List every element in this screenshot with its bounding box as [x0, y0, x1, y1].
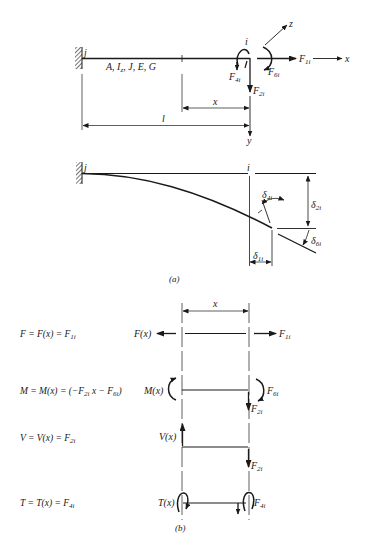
torque-F4i-icon — [243, 492, 253, 511]
moment-F6i-icon — [256, 379, 264, 401]
F-x-label: F(x) — [133, 328, 152, 340]
F2i-label: F2i — [250, 460, 263, 473]
F1i-label: F1i — [298, 53, 311, 66]
length-label: l — [162, 113, 165, 124]
node-i-label: i — [247, 162, 250, 173]
torque-equation: T = T(x) = F4i — [20, 498, 75, 510]
y-axis-label: y — [246, 135, 252, 146]
F4i-label: F4i — [228, 71, 241, 84]
moment-equation: M = M(x) = (−F2i x − F6i) — [19, 386, 122, 398]
delta-6i-label: δ6i — [311, 235, 321, 248]
delta-4i-label: δ4i — [262, 189, 272, 202]
beam-properties-label: A, Iz, J, E, G — [105, 61, 156, 74]
F4i-label: F4i — [253, 497, 266, 510]
deflected-beam: j i δ4i δ2i δ6i δ1i — [76, 162, 321, 266]
x-dimension-label: x — [212, 96, 218, 107]
moment-M-x-icon — [169, 378, 177, 400]
fixed-support-hatch-icon — [76, 162, 82, 184]
F6i-label: F6i — [266, 385, 279, 398]
node-j-label: j — [82, 162, 87, 173]
x-axis-label: x — [344, 53, 350, 64]
F1i-label: F1i — [278, 328, 291, 341]
M-x-label: M(x) — [143, 385, 164, 397]
fixed-support-hatch-icon — [75, 47, 82, 69]
node-j-label: j — [82, 47, 87, 58]
free-body-diagrams: x F = F(x) = F1i F(x) F1i M = M(x) = (−F… — [19, 298, 291, 520]
delta-1i-label: δ1i — [253, 250, 263, 263]
z-axis-arrow — [265, 25, 287, 45]
z-axis-label: z — [288, 18, 293, 29]
x-dimension-label: x — [212, 298, 218, 309]
node-i-label: i — [245, 36, 248, 47]
axial-force-equation: F = F(x) = F1i — [19, 329, 76, 341]
deflected-curve — [82, 174, 272, 229]
F2i-label: F2i — [250, 403, 263, 416]
V-x-label: V(x) — [159, 431, 177, 443]
F2i-label: F2i — [252, 85, 265, 98]
T-x-label: T(x) — [158, 497, 175, 509]
delta-2i-label: δ2i — [311, 199, 321, 212]
F6i-label: F6i — [267, 66, 280, 79]
shear-equation: V = V(x) = F2i — [20, 433, 76, 445]
loaded-beam: j A, Iz, J, E, G i F4i F2i F6i F1i x z y — [75, 18, 350, 146]
caption-b: (b) — [175, 523, 186, 533]
caption-a: (a) — [169, 274, 180, 284]
beam-element-figure: j A, Iz, J, E, G i F4i F2i F6i F1i x z y — [0, 0, 371, 555]
